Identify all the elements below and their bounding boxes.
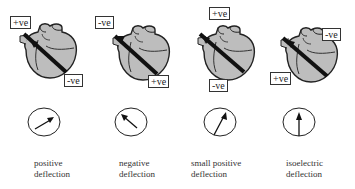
panel-negative-deflection: -ve +ve negative deflection [89,0,178,189]
panel-positive-deflection: +ve -ve positive deflection [0,0,89,189]
vector-dial-icon [281,106,317,140]
vector-dial-icon [202,106,238,140]
negative-electrode-label: -ve [209,79,228,92]
panel-small-positive-deflection: +ve -ve small positive deflection [178,0,267,189]
deflection-caption: isoelectric deflection [286,158,323,180]
vector-dial-icon [113,106,149,138]
vector-dial-icon [26,106,62,138]
deflection-caption: positive deflection [34,158,70,180]
positive-electrode-label: +ve [148,75,169,88]
negative-electrode-label: -ve [322,28,341,41]
heart-icon [267,0,355,100]
positive-electrode-label: +ve [10,16,31,29]
panel-isoelectric-deflection: -ve +ve isoelectric deflection [267,0,355,189]
negative-electrode-label: -ve [95,16,114,29]
positive-electrode-label: +ve [209,7,230,20]
deflection-caption: small positive deflection [191,158,241,180]
deflection-caption: negative deflection [119,158,155,180]
negative-electrode-label: -ve [64,74,83,87]
positive-electrode-label: +ve [270,72,291,85]
